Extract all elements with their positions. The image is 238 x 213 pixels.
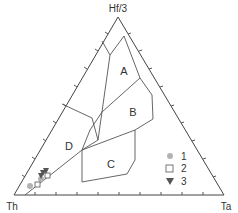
legend-triangle-down-icon: [166, 178, 174, 185]
legend-label-1: 1: [181, 151, 187, 162]
tick-marks: [22, 32, 216, 195]
vertex-label-left: Th: [6, 201, 18, 212]
field-label-c: C: [107, 158, 115, 170]
field-label-b: B: [129, 106, 136, 118]
vertex-label-top: Hf/3: [109, 3, 128, 14]
field-label-d: D: [65, 140, 73, 152]
legend-label-2: 2: [181, 163, 187, 174]
legend-circle-icon: [167, 153, 173, 159]
ternary-diagram: A B C D Hf/3 Th Ta 1 2 3: [0, 0, 238, 213]
vertex-label-right: Ta: [221, 201, 232, 212]
field-label-a: A: [120, 65, 128, 77]
legend: 1 2 3: [166, 151, 187, 187]
legend-label-3: 3: [181, 176, 187, 187]
legend-square-icon: [166, 165, 173, 172]
